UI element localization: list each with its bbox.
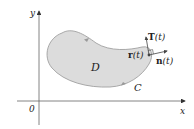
tangent-arg: (t) [155,32,166,42]
x-axis-label: x [180,107,185,116]
y-axis-label: y [30,9,35,18]
position-label: r(t) [128,51,143,60]
tangent-symbol: T [148,32,155,42]
region-label-d: D [91,62,100,73]
normal-arg: (t) [163,56,174,66]
green-theorem-figure: y x 0 D C T(t) r(t) n(t) [0,0,194,129]
tangent-label: T(t) [148,33,165,42]
curve-label-c: C [134,83,142,93]
origin-label: 0 [29,105,35,114]
position-arg: (t) [133,50,144,60]
normal-label: n(t) [156,57,173,66]
